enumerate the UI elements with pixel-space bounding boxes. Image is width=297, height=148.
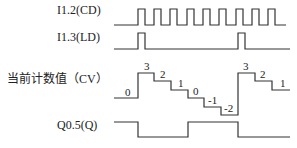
cv-value-0: 0 [125, 86, 131, 98]
cv-value-5: -1 [208, 94, 217, 106]
cv-value-9: 1 [280, 77, 286, 89]
cv-value-2: 2 [160, 68, 166, 80]
q-waveform [114, 122, 290, 137]
timing-diagram: 0 3 2 1 0 -1 -2 3 2 1 [0, 0, 297, 148]
cv-value-1: 3 [144, 60, 150, 72]
cv-value-7: 3 [243, 60, 249, 72]
cv-value-6: -2 [224, 102, 233, 114]
ld-waveform [114, 33, 290, 49]
cv-value-4: 0 [193, 85, 199, 97]
cd-waveform [114, 9, 286, 25]
cv-value-8: 2 [260, 68, 266, 80]
cv-value-3: 1 [178, 77, 184, 89]
